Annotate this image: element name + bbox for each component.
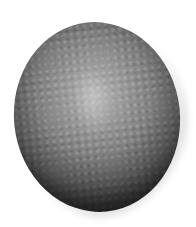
scene	[0, 0, 196, 227]
